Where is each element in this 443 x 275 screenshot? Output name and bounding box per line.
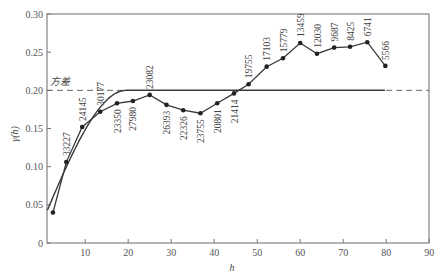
y-tick-label: 0 [38, 238, 43, 249]
data-point [98, 109, 103, 114]
y-tick-label: 0.20 [26, 85, 44, 96]
data-point [264, 64, 269, 69]
data-point [51, 210, 56, 215]
x-axis-label: h [230, 262, 235, 273]
point-pair-count-label: 21414 [230, 99, 240, 123]
point-pair-count-label: 26393 [162, 111, 172, 135]
point-pair-count-label: 13459 [296, 13, 306, 37]
spherical-model-path [47, 90, 385, 210]
data-point [164, 103, 169, 108]
x-tick-label: 30 [166, 247, 176, 258]
data-point [383, 64, 388, 69]
data-point [115, 101, 120, 106]
x-tick-label: 90 [424, 247, 434, 258]
point-pair-count-label: 20801 [213, 109, 223, 133]
data-point [131, 99, 136, 104]
data-point [147, 93, 152, 98]
data-point [365, 40, 370, 45]
point-pair-count-label: 23350 [113, 109, 123, 133]
y-tick-label: 0.05 [26, 199, 44, 210]
point-pair-count-label: 19755 [244, 54, 254, 78]
variance-label: 方差 [50, 76, 71, 87]
y-axis-label: γ(h) [9, 126, 21, 142]
x-tick-label: 10 [80, 247, 90, 258]
data-point [281, 56, 286, 61]
variogram-chart: 00.050.100.150.200.250.30 10203040506070… [0, 0, 443, 275]
point-labels: 3322724145301772335027980230822639322326… [62, 13, 391, 156]
data-point [332, 45, 337, 50]
x-tick-label: 70 [338, 247, 348, 258]
data-point [198, 111, 203, 116]
data-point [232, 91, 237, 96]
point-pair-count-label: 17103 [262, 37, 272, 61]
point-pair-count-label: 5566 [381, 41, 391, 60]
point-pair-count-label: 30177 [96, 82, 106, 106]
data-point [246, 82, 251, 87]
point-pair-count-label: 24145 [78, 97, 88, 121]
data-point [80, 125, 85, 130]
x-tick-label: 50 [252, 247, 262, 258]
y-tick-label: 0.15 [26, 123, 44, 134]
point-pair-count-label: 9687 [330, 22, 340, 41]
y-tick-label: 0.25 [26, 47, 44, 58]
y-tick-label: 0.30 [26, 9, 44, 20]
data-point [181, 108, 186, 113]
model-curve [47, 90, 385, 210]
data-point [348, 45, 353, 50]
point-pair-count-label: 22326 [179, 116, 189, 140]
data-point [64, 160, 69, 165]
x-axis-ticks: 102030405060708090 [80, 239, 434, 258]
point-pair-count-label: 6741 [363, 17, 373, 36]
point-pair-count-label: 15779 [279, 28, 289, 52]
data-point [298, 41, 303, 46]
x-tick-label: 60 [295, 247, 305, 258]
x-tick-label: 40 [209, 247, 219, 258]
point-pair-count-label: 8425 [346, 22, 356, 41]
point-pair-count-label: 27980 [128, 107, 138, 131]
x-tick-label: 20 [123, 247, 133, 258]
point-pair-count-label: 23755 [196, 119, 206, 143]
data-point [315, 51, 320, 56]
point-pair-count-label: 33227 [62, 132, 72, 156]
data-point [215, 101, 220, 106]
y-tick-label: 0.10 [26, 161, 44, 172]
x-tick-label: 80 [381, 247, 391, 258]
point-pair-count-label: 23082 [145, 65, 155, 89]
point-pair-count-label: 12030 [313, 24, 323, 48]
